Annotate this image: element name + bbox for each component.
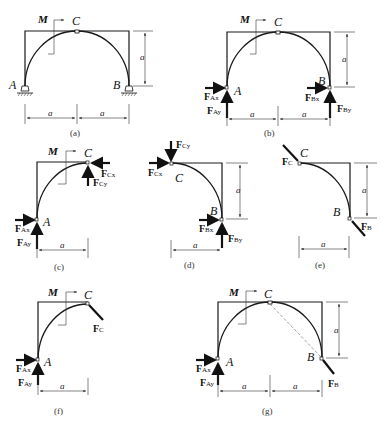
pin-support-b	[121, 86, 137, 96]
force-fby-label: FBy	[228, 233, 243, 244]
panel-g: M C A B FAx FAy FB a a a (g)	[196, 286, 348, 416]
force-fb-label: FB	[328, 378, 339, 389]
panel-a: M C A B a a a (a)	[8, 13, 153, 138]
dim-label: a	[60, 240, 65, 250]
point-a-label: A	[43, 355, 52, 369]
point-a-label: A	[233, 84, 242, 98]
force-fb-line-icon	[323, 360, 334, 374]
force-fcx-label: FCx	[101, 168, 116, 179]
panel-d: FCy FCx C B FBx FBy a a (d)	[148, 139, 248, 270]
force-fc-line-icon	[89, 305, 103, 320]
force-fby-label: FBy	[337, 103, 352, 114]
caption-c: (c)	[54, 262, 64, 272]
point-a-label: A	[42, 215, 51, 229]
point-a-label: A	[8, 78, 17, 92]
moment-label: M	[47, 286, 59, 298]
point-c-label: C	[84, 288, 93, 302]
moment-label: M	[228, 286, 240, 298]
force-fax-label: FAx	[204, 91, 219, 102]
moment-label: M	[47, 145, 59, 157]
force-fax-label: FAx	[196, 363, 211, 374]
dim-label: a	[362, 185, 367, 195]
caption-g: (g)	[262, 406, 273, 416]
force-fb-label: FB	[361, 221, 372, 232]
dim-label: a	[242, 381, 247, 391]
point-c-label: C	[175, 171, 184, 185]
point-b-label: B	[307, 350, 315, 364]
force-fc-label: FC	[282, 156, 293, 167]
dim-label: a	[193, 240, 198, 250]
force-fax-label: FAx	[16, 363, 31, 374]
force-fbx-label: FBx	[305, 92, 320, 103]
point-b-label: B	[113, 78, 121, 92]
point-c-label: C	[274, 15, 283, 29]
force-fay-label: FAy	[200, 377, 215, 388]
dim-label: a	[302, 109, 307, 119]
dim-label: a	[342, 54, 347, 64]
force-fay-label: FAy	[207, 105, 222, 116]
moment-label: M	[239, 13, 251, 25]
force-fc-label: FC	[93, 323, 104, 334]
force-fcy-label: FCy	[176, 139, 191, 150]
caption-d: (d)	[184, 260, 195, 270]
caption-a: (a)	[70, 128, 80, 138]
dim-label: a	[48, 108, 53, 118]
dim-label: a	[60, 381, 65, 391]
panel-f: M C A FC FAx FAy a (f)	[16, 286, 104, 416]
point-b-label: B	[318, 74, 326, 88]
dim-label: a	[293, 381, 298, 391]
caption-e: (e)	[315, 260, 325, 270]
dim-label: a	[236, 185, 241, 195]
point-c-label: C	[84, 146, 93, 160]
pin-support-a	[17, 86, 33, 96]
arch-free-body-diagrams: M C A B a a a (a) M C A B FAx FAy	[0, 0, 387, 435]
point-c-label: C	[72, 14, 81, 28]
point-a-label: A	[225, 355, 234, 369]
point-c-label: C	[264, 287, 273, 301]
moment-label: M	[37, 13, 49, 25]
dim-label: a	[250, 109, 255, 119]
hinge-c	[75, 30, 79, 33]
panel-e: C B FC FB a a (e)	[282, 145, 377, 270]
panel-b: M C A B FAx FAy FBx FBy a a a (b)	[204, 13, 355, 138]
force-fcx-label: FCx	[148, 167, 163, 178]
caption-b: (b)	[264, 128, 275, 138]
dim-label: a	[321, 239, 326, 249]
caption-f: (f)	[54, 406, 63, 416]
force-fay-label: FAy	[17, 237, 32, 248]
force-fax-label: FAx	[15, 223, 30, 234]
point-b-label: B	[333, 205, 341, 219]
point-c-label: C	[300, 146, 309, 160]
moment-m-icon	[48, 20, 64, 54]
force-fay-label: FAy	[18, 377, 33, 388]
dim-label: a	[100, 108, 105, 118]
panel-c: M C A FCx FCy FAx FAy a (c)	[15, 145, 116, 272]
dim-label: a	[140, 52, 145, 62]
force-fbx-label: FBx	[199, 223, 214, 234]
dim-label: a	[334, 325, 339, 335]
point-b-label: B	[210, 204, 218, 218]
